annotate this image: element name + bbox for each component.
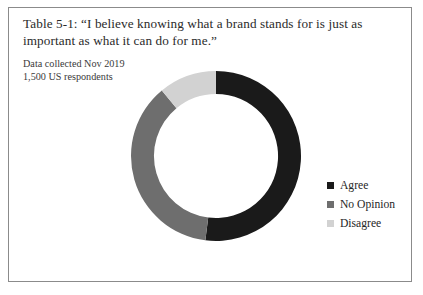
- legend-item-disagree[interactable]: Disagree: [327, 214, 413, 233]
- legend-item-label: Disagree: [340, 217, 381, 230]
- legend-item-label: Agree: [340, 179, 368, 192]
- page-title: Table 5-1: “I believe knowing what a bra…: [23, 15, 395, 49]
- legend-item-label: No Opinion: [340, 198, 395, 211]
- donut-slice-no-opinion[interactable]: [131, 91, 208, 241]
- legend-item-no-opinion[interactable]: No Opinion: [327, 195, 413, 214]
- donut-chart: [123, 63, 309, 249]
- legend-swatch-icon: [327, 201, 334, 208]
- figure-frame: Table 5-1: “I believe knowing what a bra…: [8, 7, 412, 282]
- legend-item-agree[interactable]: Agree: [327, 176, 413, 195]
- donut-chart-svg: [123, 63, 309, 249]
- legend-swatch-icon: [327, 220, 334, 227]
- legend-swatch-icon: [327, 182, 334, 189]
- chart-legend: AgreeNo OpinionDisagree: [327, 176, 413, 233]
- donut-slice-agree[interactable]: [205, 71, 301, 241]
